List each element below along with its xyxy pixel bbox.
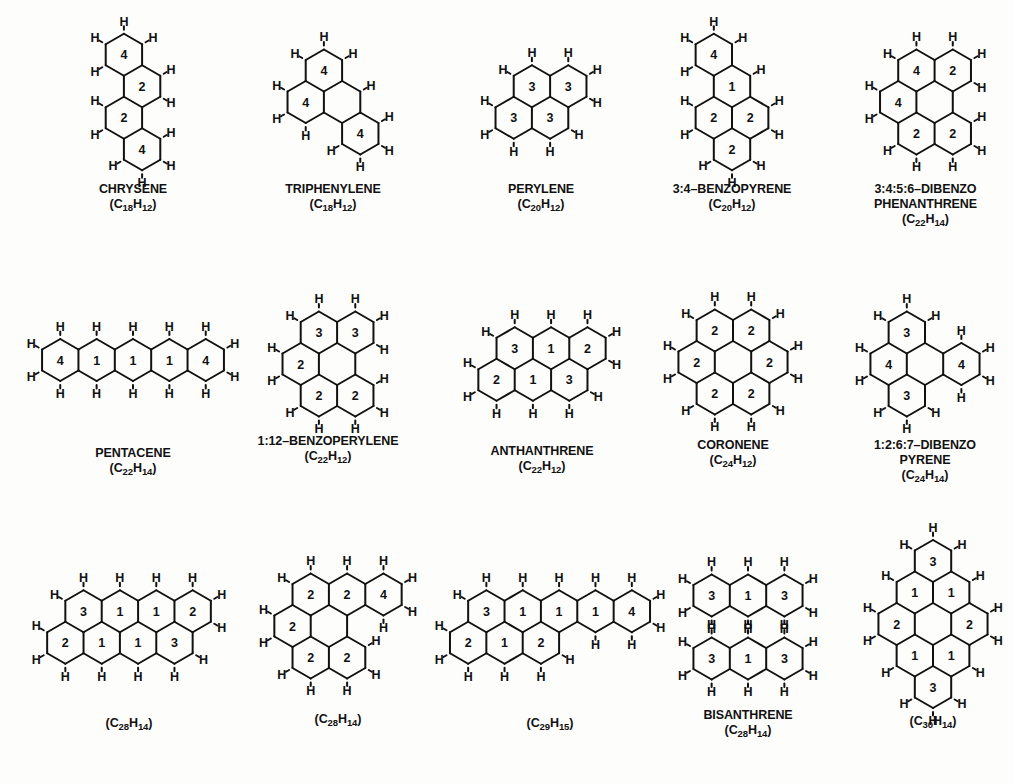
hydrogen-label: H	[863, 634, 872, 648]
hydrogen-label: H	[547, 308, 556, 322]
hydrogen-label: H	[528, 407, 537, 421]
ring-index-label: 1	[548, 342, 555, 356]
hydrogen-label: H	[899, 538, 908, 552]
hydrogen-label: H	[912, 160, 921, 174]
molecule-anthanthrene: HHHHHHHHHHHH312213 ANTHANTHRENE (C22H12)	[452, 300, 632, 475]
hydrogen-label: H	[230, 337, 239, 351]
hydrogen-label: H	[747, 290, 756, 304]
structure-diagram: HHHHHHHHHHHH3443	[840, 296, 1010, 432]
hydrogen-label: H	[794, 339, 803, 353]
molecule-name: CORONENE	[697, 438, 768, 453]
ring-index-label: 2	[289, 620, 296, 634]
ring-index-label: 1	[592, 605, 599, 619]
molecule-chrysene: HHHHHHHHHHHH4224 CHRYSENE (C18H12)	[58, 22, 208, 213]
hydrogen-label: H	[977, 47, 986, 61]
hydrogen-label: H	[290, 47, 299, 61]
hydrogen-label: H	[272, 112, 281, 126]
hydrogen-label: H	[343, 554, 352, 568]
molecule-formula: (C24H14)	[874, 468, 976, 484]
hydrogen-label: H	[201, 387, 210, 401]
molecule-name: 1:2:6:7–DIBENZO	[874, 438, 976, 453]
hydrogen-label: H	[583, 308, 592, 322]
hydrogen-label: H	[128, 387, 137, 401]
molecule-coronene: HHHHHHHHHHHH222222 CORONENE (C24H12)	[658, 294, 808, 469]
ring-index-label: 4	[710, 48, 717, 62]
ring-index-label: 3	[510, 111, 517, 125]
molecule-benzoperylene: HHHHHHHHHHHH32322 1:12–BENZOPERYLENE (C2…	[248, 294, 408, 465]
hydrogen-label: H	[809, 635, 818, 649]
ring-index-label: 3	[781, 652, 788, 666]
hydrogen-label: H	[738, 31, 747, 45]
hydrogen-label: H	[301, 129, 310, 143]
hydrogen-label: H	[957, 324, 966, 338]
ring-index-label: 1	[153, 605, 160, 619]
structure-diagram: HHHHHHHHHHHHHHHHHHHH313313	[672, 556, 824, 698]
hydrogen-label: H	[285, 309, 294, 323]
ring-index-label: 1	[911, 649, 918, 663]
ring-index-label: 2	[344, 651, 351, 665]
hydrogen-label: H	[873, 406, 882, 420]
hydrogen-label: H	[994, 601, 1003, 615]
hydrogen-label: H	[348, 47, 357, 61]
hydrogen-label: H	[32, 653, 41, 667]
ring-index-label: 2	[693, 356, 700, 370]
ring-index-label: 1	[93, 354, 100, 368]
ring-index-label: 3	[80, 605, 87, 619]
hydrogen-label: H	[794, 372, 803, 386]
hydrogen-label: H	[928, 521, 937, 535]
structure-diagram: HHHHHHHHHH3333	[466, 22, 616, 182]
ring-index-label: 4	[895, 96, 902, 110]
molecule-caption: (C28H14)	[106, 716, 153, 732]
hydrogen-label: H	[565, 653, 574, 667]
hydrogen-label: H	[319, 30, 328, 44]
hydrogen-label: H	[201, 320, 210, 334]
molecule-name-line2: PHENANTHRENE	[874, 197, 977, 212]
molecule-formula: (C28H14)	[106, 716, 153, 732]
hydrogen-label: H	[948, 160, 957, 174]
ring-index-label: 2	[307, 588, 314, 602]
hydrogen-label: H	[217, 621, 226, 635]
ring-index-label: 3	[352, 326, 359, 340]
hydrogen-label: H	[379, 554, 388, 568]
hydrogen-label: H	[50, 588, 59, 602]
hydrogen-label: H	[385, 144, 394, 158]
molecule-formula: (C22H14)	[874, 212, 977, 228]
ring-index-label: 3	[483, 605, 490, 619]
hydrogen-label: H	[863, 601, 872, 615]
ring-index-label: 2	[711, 324, 718, 338]
hydrogen-label: H	[380, 406, 389, 420]
hydrogen-label: H	[681, 307, 690, 321]
hydrogen-label: H	[681, 404, 690, 418]
ring-index-label: 1	[98, 636, 105, 650]
hydrogen-label: H	[56, 387, 65, 401]
ring-index-label: 1	[166, 354, 173, 368]
hydrogen-label: H	[463, 356, 472, 370]
ring-index-label: 4	[320, 64, 327, 78]
ring-index-label: 4	[357, 127, 364, 141]
molecule-formula: (C24H12)	[697, 453, 768, 469]
hydrogen-label: H	[957, 697, 966, 711]
molecule-c28h14-b: HHHHHHHHHHHHHH222224 (C28H14)	[250, 556, 426, 728]
hydrogen-label: H	[809, 669, 818, 683]
ring-index-label: 3	[930, 555, 937, 569]
ring-index-label: 1	[948, 586, 955, 600]
hydrogen-label: H	[167, 126, 176, 140]
hydrogen-label: H	[259, 603, 268, 617]
hydrogen-label: H	[663, 372, 672, 386]
hydrogen-label: H	[656, 621, 665, 635]
hydrogen-label: H	[327, 144, 336, 158]
hydrogen-label: H	[555, 571, 564, 585]
molecule-caption: (C28H14)	[315, 712, 362, 728]
structure-diagram: HHHHHHHHHHHH222222	[658, 294, 808, 430]
ring-index-label: 3	[903, 389, 910, 403]
hydrogen-label: H	[727, 176, 736, 190]
hydrogen-label: H	[509, 145, 518, 159]
ring-index-label: 3	[708, 652, 715, 666]
ring-index-label: 2	[344, 588, 351, 602]
hydrogen-label: H	[780, 618, 789, 632]
hydrogen-label: H	[314, 292, 323, 306]
ring-index-label: 2	[893, 618, 900, 632]
hydrogen-label: H	[61, 670, 70, 684]
hydrogen-label: H	[385, 110, 394, 124]
hydrogen-label: H	[855, 374, 864, 388]
